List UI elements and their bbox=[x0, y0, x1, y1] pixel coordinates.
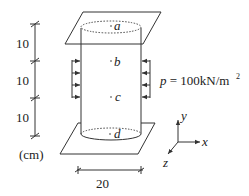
pressure-value: = 100kN/m bbox=[167, 73, 230, 88]
unit-label: (cm) bbox=[19, 147, 44, 162]
svg-text:p = 100kN/m: p = 100kN/m bbox=[159, 73, 229, 88]
x-axis-label: x bbox=[201, 134, 208, 149]
svg-text:b: b bbox=[114, 54, 121, 69]
dimension-label-bottom: 10 bbox=[16, 110, 29, 125]
svg-text:c: c bbox=[115, 89, 121, 104]
pressure-label: p = 100kN/m 2 bbox=[159, 72, 240, 88]
vertical-dimension: 10 10 10 (cm) bbox=[16, 21, 44, 162]
diameter-label: 20 bbox=[96, 176, 109, 191]
top-plate bbox=[65, 12, 161, 44]
dimension-label-middle: 10 bbox=[16, 73, 29, 88]
z-axis-label: z bbox=[162, 155, 168, 170]
diameter-dimension: 20 bbox=[75, 166, 144, 191]
coordinate-axes: y x z bbox=[162, 108, 208, 170]
left-pressure-arrows bbox=[72, 60, 80, 98]
right-pressure-arrows bbox=[142, 60, 150, 98]
pressure-unit-exponent: 2 bbox=[236, 72, 240, 81]
point-b: b bbox=[110, 54, 121, 69]
cylinder-stress-diagram: 10 10 10 (cm) a b c d bbox=[0, 0, 249, 196]
dimension-label-top: 10 bbox=[16, 36, 29, 51]
svg-text:a: a bbox=[114, 18, 121, 33]
svg-text:d: d bbox=[114, 126, 121, 141]
y-axis-label: y bbox=[179, 108, 187, 123]
point-c: c bbox=[110, 89, 121, 104]
